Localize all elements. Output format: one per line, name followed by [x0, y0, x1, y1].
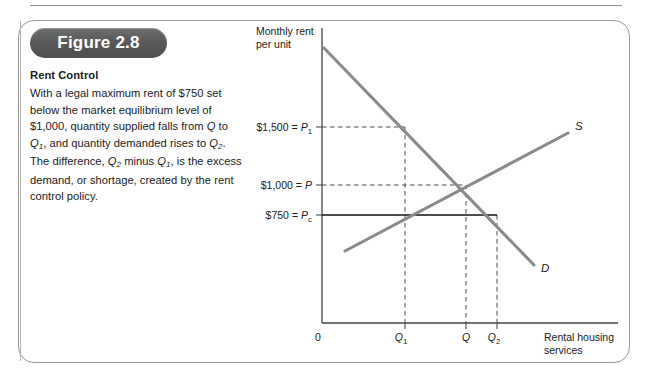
x-axis-label-line2: services — [544, 344, 583, 356]
figure-caption-text: With a legal maximum rent of $750 set be… — [30, 85, 243, 205]
x-tick-label-origin: 0 — [315, 331, 321, 343]
page-top-rule — [30, 5, 622, 6]
x-axis-label-line1: Rental housing — [544, 331, 614, 343]
y-axis-label-line1: Monthly rent — [256, 25, 314, 37]
supply-demand-chart: Monthly rent per unit $1,500=P1 $1,000=P… — [248, 20, 630, 363]
x-tick-label-q2: Q2 — [488, 331, 501, 346]
supply-curve-label: S — [575, 120, 583, 132]
supply-curve — [345, 133, 568, 251]
x-tick-label-q: Q — [462, 331, 470, 343]
demand-curve — [324, 48, 534, 265]
y-axis-label-line2: per unit — [256, 38, 291, 50]
y-tick-label-pc: $750=Pc — [266, 209, 313, 224]
figure-number-label: Figure 2.8 — [30, 28, 167, 58]
chart-area: Monthly rent per unit $1,500=P1 $1,000=P… — [248, 20, 630, 363]
demand-curve-label: D — [541, 262, 549, 274]
x-tick-label-q1: Q1 — [395, 331, 408, 346]
figure-number-badge: Figure 2.8 — [30, 28, 167, 58]
y-tick-label-p: $1,000=P — [261, 179, 312, 191]
y-tick-label-p1: $1,500=P1 — [256, 121, 312, 136]
figure-caption-column: Figure 2.8 Rent Control With a legal max… — [20, 21, 248, 361]
figure-title: Rent Control — [30, 69, 98, 81]
